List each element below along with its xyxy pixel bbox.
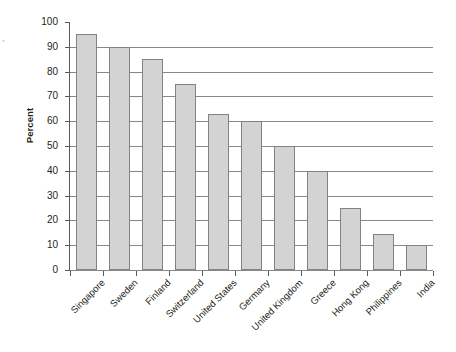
y-tick-mark-20: [65, 220, 70, 221]
bar: [142, 59, 163, 270]
y-tick-mark-100: [65, 22, 70, 23]
plot-area: 1009080706050403020100: [70, 22, 433, 270]
x-tick-label: India: [414, 277, 436, 299]
bar: [340, 208, 361, 270]
y-tick-label-90: 90: [18, 42, 58, 52]
y-tick-label-60: 60: [18, 116, 58, 126]
x-tick-label: Singapore: [68, 277, 106, 315]
x-tick-mark: [235, 271, 236, 276]
bar: [406, 245, 427, 270]
y-tick-mark-50: [65, 146, 70, 147]
y-tick-mark-90: [65, 47, 70, 48]
y-tick-label-0: 0: [18, 265, 58, 275]
x-tick-label: Finland: [142, 277, 172, 307]
x-tick-mark: [367, 271, 368, 276]
gridline-0: [70, 270, 433, 271]
x-tick-mark: [70, 271, 71, 276]
y-tick-label-100: 100: [18, 17, 58, 27]
y-tick-label-80: 80: [18, 67, 58, 77]
bar: [208, 114, 229, 270]
x-tick-mark: [301, 271, 302, 276]
x-tick-label: Sweden: [107, 277, 139, 309]
scan-artifact: [2, 40, 5, 42]
y-tick-mark-40: [65, 171, 70, 172]
bar: [175, 84, 196, 270]
x-tick-mark: [400, 271, 401, 276]
bar: [307, 171, 328, 270]
y-tick-label-30: 30: [18, 191, 58, 201]
y-tick-mark-70: [65, 96, 70, 97]
x-tick-mark: [334, 271, 335, 276]
y-tick-label-50: 50: [18, 141, 58, 151]
bar: [241, 121, 262, 270]
y-tick-label-20: 20: [18, 215, 58, 225]
y-tick-mark-10: [65, 245, 70, 246]
y-tick-mark-30: [65, 196, 70, 197]
bar-chart: Percent 1009080706050403020100 Singapore…: [0, 0, 456, 352]
bar: [109, 47, 130, 270]
y-tick-label-40: 40: [18, 166, 58, 176]
x-tick-label: Greece: [307, 277, 337, 307]
y-tick-mark-60: [65, 121, 70, 122]
x-tick-mark: [103, 271, 104, 276]
x-tick-mark: [202, 271, 203, 276]
bar: [274, 146, 295, 270]
y-tick-mark-80: [65, 72, 70, 73]
x-tick-mark: [136, 271, 137, 276]
x-tick-mark: [268, 271, 269, 276]
x-tick-mark: [169, 271, 170, 276]
bar: [373, 234, 394, 270]
bar: [76, 34, 97, 270]
y-tick-label-70: 70: [18, 91, 58, 101]
x-tick-mark: [433, 271, 434, 276]
y-tick-label-10: 10: [18, 240, 58, 250]
